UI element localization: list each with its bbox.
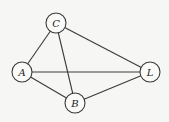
node-l: L [140, 62, 160, 82]
node-b-label: B [70, 98, 78, 109]
node-a: A [12, 62, 32, 82]
edges [22, 23, 150, 103]
edge-c-b [56, 23, 75, 103]
node-l-label: L [146, 67, 154, 78]
edge-c-l [56, 23, 150, 72]
node-b: B [65, 93, 85, 113]
graph-diagram: C A B L [0, 0, 169, 122]
node-c: C [46, 13, 66, 33]
node-a-label: A [17, 67, 25, 78]
edge-b-l [75, 72, 150, 103]
node-c-label: C [52, 18, 60, 29]
